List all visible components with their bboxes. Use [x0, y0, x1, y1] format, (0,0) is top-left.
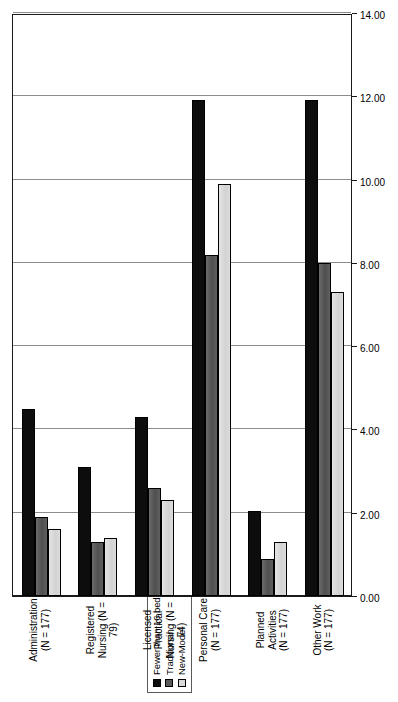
category-label: Other Work (N = 177) — [312, 598, 335, 662]
bar — [148, 488, 161, 596]
bar — [331, 292, 344, 596]
bar-group — [13, 15, 70, 596]
category-label: Personal Care (N = 177) — [198, 598, 221, 662]
legend-swatch-icon — [178, 679, 186, 687]
axis-tick-label: 12.00 — [360, 93, 385, 104]
bar — [192, 100, 205, 596]
axis-tick — [352, 180, 357, 181]
axis-tick — [352, 96, 357, 97]
bar — [248, 511, 261, 596]
axis-tick — [352, 263, 357, 264]
bar — [91, 542, 104, 596]
bar — [22, 409, 35, 596]
axis-tick-label: 10.00 — [360, 177, 385, 188]
bar — [161, 500, 174, 596]
axis-tick-label: 4.00 — [360, 426, 379, 437]
legend-swatch-icon — [153, 679, 161, 687]
bar-groups — [13, 15, 351, 596]
value-axis: 0.002.004.006.008.0010.0012.0014.00 — [352, 14, 398, 597]
bar — [35, 517, 48, 596]
axis-tick — [352, 596, 357, 597]
bar — [135, 417, 148, 596]
axis-tick-label: 2.00 — [360, 510, 379, 521]
bar — [48, 529, 61, 596]
bar-group — [126, 15, 183, 596]
axis-tick — [352, 346, 357, 347]
category-label: Licensed Practical Nursing (N = 74) — [142, 598, 188, 662]
axis-tick — [352, 429, 357, 430]
bar — [318, 263, 331, 596]
axis-tick — [352, 13, 357, 14]
bar — [78, 467, 91, 596]
bar-group — [70, 15, 127, 596]
legend-swatch-icon — [165, 679, 173, 687]
bar — [274, 542, 287, 596]
bar-group — [183, 15, 240, 596]
bar — [305, 100, 318, 596]
axis-tick-label: 6.00 — [360, 343, 379, 354]
bar — [261, 559, 274, 596]
category-axis: Administration (N = 177)Registered Nursi… — [12, 598, 352, 662]
bar — [218, 184, 231, 596]
axis-tick-label: 0.00 — [360, 593, 379, 604]
bar-group — [296, 15, 353, 596]
gridline — [13, 12, 351, 13]
category-label: Registered Nursing (N = 79) — [85, 598, 120, 662]
chart-figure: Fewer than 16 beds Traditional New-Model… — [0, 0, 398, 702]
axis-tick-label: 14.00 — [360, 10, 385, 21]
axis-tick — [352, 513, 357, 514]
bar-group — [240, 15, 297, 596]
plot-area — [12, 14, 352, 597]
bar — [205, 255, 218, 596]
category-label: Administration (N = 177) — [28, 598, 51, 662]
bar — [104, 538, 117, 596]
category-label: Planned Activities (N = 177) — [255, 598, 290, 662]
axis-tick-label: 8.00 — [360, 260, 379, 271]
